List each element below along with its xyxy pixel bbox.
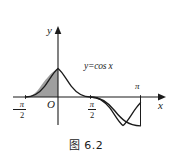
y-axis-arrow-icon bbox=[55, 26, 62, 34]
origin-label: O bbox=[47, 99, 55, 110]
fraction-numerator: π bbox=[89, 100, 95, 109]
tick-label-half-pi: π 2 bbox=[88, 100, 96, 119]
curve-equation-label: y=cos x bbox=[84, 62, 112, 72]
figure-container: y x O y=cos x π π 2 π 2 图 6.2 bbox=[0, 0, 172, 161]
tick-label-neg-half-pi: π 2 bbox=[13, 100, 26, 119]
x-axis-label: x bbox=[158, 100, 163, 111]
shaded-area-under-curve bbox=[26, 69, 59, 98]
fraction-half-pi: π 2 bbox=[88, 100, 96, 119]
fraction-neg-half-pi: π 2 bbox=[18, 100, 26, 119]
fraction-denominator: 2 bbox=[89, 110, 95, 119]
tick-label-pi: π bbox=[135, 82, 140, 91]
fraction-denominator: 2 bbox=[19, 110, 25, 119]
y-axis-label: y bbox=[47, 25, 52, 36]
figure-caption: 图 6.2 bbox=[0, 136, 172, 152]
fraction-numerator: π bbox=[19, 100, 25, 109]
